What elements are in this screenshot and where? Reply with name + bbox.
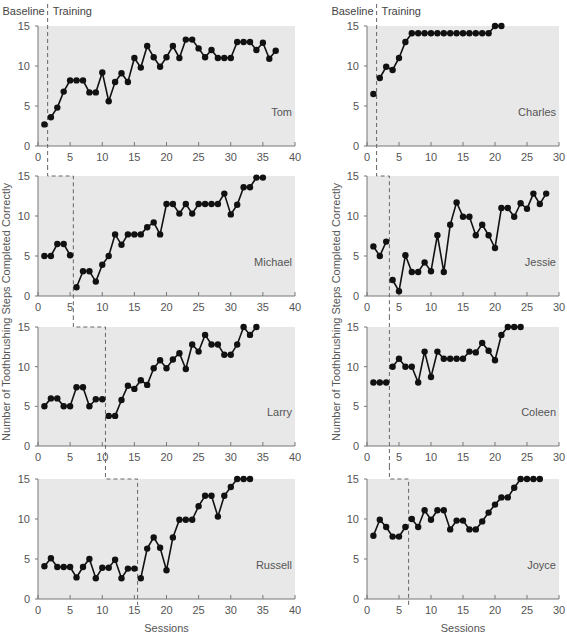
data-point [441, 269, 447, 275]
x-tick-label: 10 [96, 301, 108, 313]
data-point [466, 348, 472, 354]
data-point [80, 564, 86, 570]
data-point [543, 190, 549, 196]
data-point [131, 55, 137, 61]
data-point [273, 48, 279, 54]
x-tick-label: 25 [521, 151, 533, 163]
data-point [409, 269, 415, 275]
data-point [460, 30, 466, 36]
x-tick-label: 0 [364, 301, 370, 313]
multiple-baseline-chart: 0510150510152025303540Tom051015051015202… [0, 0, 567, 641]
data-point [112, 231, 118, 237]
data-point [530, 476, 536, 482]
x-tick-label: 0 [364, 151, 370, 163]
panel-larry: 0510150510152025303540Larry [18, 316, 301, 466]
x-tick-label: 40 [289, 151, 301, 163]
x-tick-label: 5 [396, 151, 402, 163]
data-point [377, 253, 383, 259]
data-point [208, 47, 214, 53]
x-tick-label: 0 [35, 604, 41, 616]
x-axis-label: Sessions [441, 622, 486, 634]
data-point [415, 379, 421, 385]
data-point [99, 69, 105, 75]
data-point [144, 545, 150, 551]
data-point [99, 396, 105, 402]
data-point [517, 200, 523, 206]
data-point [240, 184, 246, 190]
data-point [99, 262, 105, 268]
data-point [93, 396, 99, 402]
data-point [383, 238, 389, 244]
data-point [485, 232, 491, 238]
data-point [505, 494, 511, 500]
y-tick-label: 10 [347, 513, 359, 525]
data-point [473, 526, 479, 532]
y-tick-label: 0 [353, 290, 359, 302]
data-point [460, 356, 466, 362]
data-point [234, 202, 240, 208]
data-point [215, 513, 221, 519]
x-tick-label: 30 [553, 604, 565, 616]
data-point [61, 564, 67, 570]
data-point [383, 64, 389, 70]
panel-joyce: 051015051015202530Joyce [347, 466, 565, 616]
y-tick-label: 15 [347, 321, 359, 333]
data-point [144, 43, 150, 49]
panel-michael: 0510150510152025303540Michael [18, 166, 301, 316]
data-point [377, 75, 383, 81]
data-point [260, 174, 266, 180]
data-point [118, 242, 124, 248]
data-point [428, 374, 434, 380]
data-point [61, 88, 67, 94]
data-point [377, 517, 383, 523]
x-tick-label: 0 [35, 151, 41, 163]
data-point [473, 349, 479, 355]
data-point [183, 517, 189, 523]
data-point [473, 30, 479, 36]
data-point [112, 557, 118, 563]
data-point [221, 190, 227, 196]
data-point [517, 476, 523, 482]
data-point [434, 30, 440, 36]
x-tick-label: 30 [553, 301, 565, 313]
y-tick-label: 10 [18, 60, 30, 72]
panel-name-label: Tom [271, 106, 292, 118]
x-tick-label: 40 [289, 301, 301, 313]
x-tick-label: 5 [396, 451, 402, 463]
data-point [234, 39, 240, 45]
data-point [86, 268, 92, 274]
data-point [163, 201, 169, 207]
data-point [176, 55, 182, 61]
data-point [415, 269, 421, 275]
plot-area [367, 327, 559, 446]
y-axis-label: Number of Toothbrushing Steps Completed … [0, 183, 12, 441]
x-tick-label: 5 [67, 151, 73, 163]
data-point [396, 533, 402, 539]
data-point [54, 564, 60, 570]
x-tick-label: 10 [425, 451, 437, 463]
data-point [176, 517, 182, 523]
data-point [106, 413, 112, 419]
y-tick-label: 5 [353, 553, 359, 565]
data-point [421, 507, 427, 513]
data-point [537, 201, 543, 207]
data-point [125, 231, 131, 237]
data-point [176, 210, 182, 216]
y-tick-label: 0 [353, 440, 359, 452]
y-tick-label: 5 [24, 100, 30, 112]
y-tick-label: 0 [24, 140, 30, 152]
data-point [118, 575, 124, 581]
data-point [421, 348, 427, 354]
x-tick-label: 20 [160, 151, 172, 163]
data-point [253, 324, 259, 330]
data-point [421, 259, 427, 265]
data-point [447, 526, 453, 532]
data-point [118, 397, 124, 403]
x-tick-label: 0 [35, 301, 41, 313]
data-point [498, 494, 504, 500]
x-tick-label: 15 [457, 451, 469, 463]
data-point [402, 524, 408, 530]
panel-name-label: Charles [518, 106, 556, 118]
data-point [208, 341, 214, 347]
data-point [389, 277, 395, 283]
